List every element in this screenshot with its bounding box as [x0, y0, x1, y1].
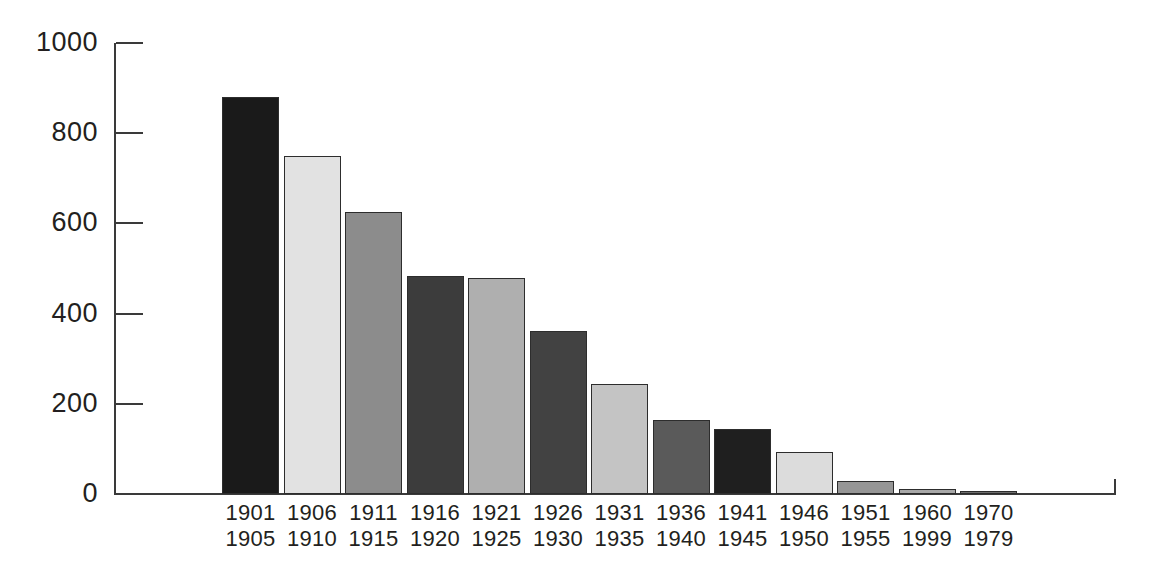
bar [345, 212, 402, 494]
bar [899, 489, 956, 494]
bar [591, 384, 648, 494]
bar [468, 278, 525, 494]
bar-chart: 02004006008001000 1901190519061910191119… [0, 0, 1164, 572]
bar [284, 156, 341, 494]
bar [222, 97, 279, 494]
bar [960, 491, 1017, 494]
bar [407, 276, 464, 494]
x-axis-tick-label-line: 1979 [949, 526, 1029, 552]
bar [653, 420, 710, 494]
bar [837, 481, 894, 494]
bar [714, 429, 771, 494]
x-axis-tick-label-line: 1970 [949, 500, 1029, 526]
bar [776, 452, 833, 494]
x-axis-tick-label: 19701979 [949, 500, 1029, 551]
bar [530, 331, 587, 494]
plot-area [0, 0, 1164, 572]
